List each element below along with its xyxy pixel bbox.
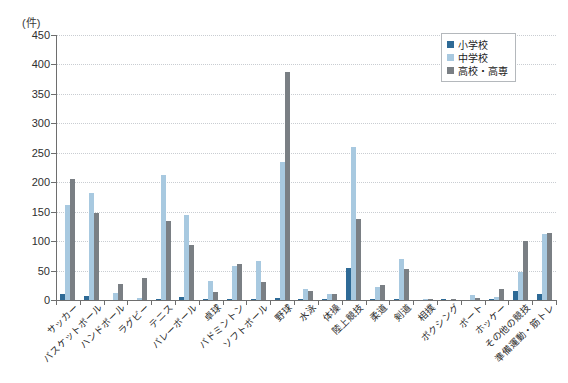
legend-item: 高校・高専 [447,64,508,77]
bar [142,278,147,300]
legend-swatch-icon [447,67,454,74]
legend-swatch-icon [447,41,454,48]
y-axis-tick-mark [51,35,56,36]
bar-group [318,35,342,300]
x-axis-tick-label: 柔道 [366,300,390,324]
bar [356,219,361,300]
bar-group [270,35,294,300]
y-axis-tick-label: 200 [16,176,50,188]
bar-group [389,35,413,300]
y-axis-tick-label: 250 [16,147,50,159]
bar [261,282,266,300]
bar [166,221,171,301]
y-axis-tick-label: 300 [16,117,50,129]
bar [285,72,290,300]
bar [213,292,218,300]
bar-group [413,35,437,300]
bar-group [80,35,104,300]
bar [70,179,75,300]
y-axis-tick-label: 100 [16,235,50,247]
bar [94,213,99,300]
y-axis-tick-mark [51,64,56,65]
bar-group [199,35,223,300]
bar [237,264,242,301]
y-axis-tick-mark [51,271,56,272]
bar-group [342,35,366,300]
bar-group [294,35,318,300]
x-axis-tick-label: 水泳 [295,300,319,324]
x-axis-labels: サッカーバスケットボールハンドボールラグビーテニスバレーボール卓球バドミントンソ… [0,300,568,383]
y-axis-tick-mark [51,212,56,213]
bar [189,245,194,300]
bar [380,285,385,300]
y-axis-tick-label: 450 [16,29,50,41]
bar-group [223,35,247,300]
bar [547,233,552,300]
bar-group [175,35,199,300]
bar-group [366,35,390,300]
bar-group [56,35,80,300]
bar-group [104,35,128,300]
bar-group [151,35,175,300]
y-axis-tick-mark [51,94,56,95]
bar [118,284,123,300]
y-axis-tick-label: 350 [16,88,50,100]
bar [404,269,409,300]
y-axis-tick-mark [51,153,56,154]
y-axis-tick-mark [51,123,56,124]
y-axis-unit-label: (件) [22,14,40,30]
x-axis-tick-label: 野球 [271,300,295,324]
bar-group [532,35,556,300]
bar [499,289,504,300]
bar [308,291,313,300]
bar-group [127,35,151,300]
bar-chart: (件) サッカーバスケットボールハンドボールラグビーテニスバレーボール卓球バドミ… [0,0,568,383]
legend-label: 高校・高専 [458,63,508,78]
y-axis-tick-mark [51,241,56,242]
bar-group [246,35,270,300]
y-axis-line [56,35,57,300]
x-axis-tick-label: 剣道 [390,300,414,324]
y-axis-tick-label: 150 [16,206,50,218]
chart-legend: 小学校 中学校 高校・高専 [441,33,516,82]
y-axis-tick-mark [51,300,56,301]
y-axis-tick-label: 50 [16,265,50,277]
y-axis-tick-label: 400 [16,58,50,70]
y-axis-tick-label: 0 [16,294,50,306]
y-axis-tick-mark [51,182,56,183]
legend-swatch-icon [447,54,454,61]
bar [523,241,528,300]
